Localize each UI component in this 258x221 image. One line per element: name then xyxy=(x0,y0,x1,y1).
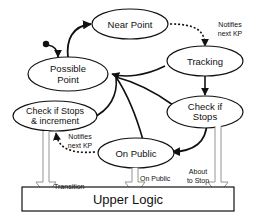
state-diagram: Near Point Tracking Possible Point Check… xyxy=(0,0,258,221)
about-to-stop-line2: to Stop xyxy=(187,177,209,185)
notifies-top-line1: Notifies xyxy=(218,21,242,28)
possible-point-label-line2: Point xyxy=(57,74,79,85)
transition-label: Transition xyxy=(54,183,85,190)
near-point-label: Near Point xyxy=(108,19,153,30)
tracking-label: Tracking xyxy=(187,56,223,67)
check-stops-increment-label-line2: & increment xyxy=(31,116,80,126)
notifies-bottom-line1: Notifies xyxy=(68,133,92,140)
arrow-possible-to-near xyxy=(68,24,91,58)
initial-arrow xyxy=(48,45,58,57)
notifies-bottom-line2: next KP xyxy=(68,142,93,149)
on-public-edge-label: On Public xyxy=(140,175,171,182)
arrow-near-to-tracking xyxy=(170,24,205,46)
upper-logic-label: Upper Logic xyxy=(93,192,164,207)
about-to-stop-line1: About xyxy=(189,168,207,175)
initial-state-dot xyxy=(43,41,49,47)
check-if-stops-label-line2: Stops xyxy=(193,111,218,122)
arrow-onpublic-to-possible xyxy=(116,77,143,140)
possible-point-label-line1: Possible xyxy=(50,63,86,74)
check-stops-increment-label-line1: Check if Stops xyxy=(26,106,85,116)
hollow-arrow-about-to-stop xyxy=(208,126,228,196)
on-public-label: On Public xyxy=(115,148,156,159)
hollow-arrow-transition xyxy=(36,131,56,196)
notifies-top-line2: next KP xyxy=(218,30,243,37)
arrow-tracking-to-possible xyxy=(112,66,165,76)
